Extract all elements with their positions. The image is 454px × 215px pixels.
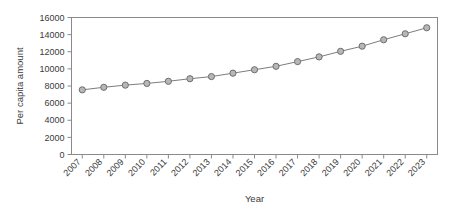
x-tick-label: 2013 (191, 157, 212, 178)
y-tick-label: 6000 (44, 98, 64, 108)
x-tick-label: 2011 (148, 157, 169, 178)
data-point[interactable]: 2015: 9900 (251, 67, 257, 73)
data-point[interactable]: 2009: 8100 (122, 82, 128, 88)
series-line (82, 28, 426, 90)
x-tick-label: 2017 (277, 157, 298, 178)
y-axis: 0200040006000800010000120001400016000 (39, 13, 71, 160)
x-tick-label: 2021 (363, 157, 384, 178)
x-tick-label: 2014 (212, 157, 233, 178)
y-tick-label: 0 (59, 150, 64, 160)
series-markers: 2007: 75502008: 78502009: 81002010: 8300… (79, 25, 430, 93)
data-point[interactable]: 2014: 9500 (230, 70, 236, 76)
x-tick-label: 2010 (126, 157, 147, 178)
x-tick-label: 2016 (255, 157, 276, 178)
y-axis-title-text: Per capita amount (14, 47, 25, 124)
x-tick-label: 2008 (83, 157, 104, 178)
line-chart: 0200040006000800010000120001400016000Per… (0, 0, 454, 215)
x-tick-label: 2018 (298, 157, 319, 178)
data-point[interactable]: 2020: 12650 (359, 43, 365, 49)
y-tick-label: 4000 (44, 115, 64, 125)
x-tick-label: 2019 (320, 157, 341, 178)
y-axis-title: Per capita amount (14, 47, 25, 124)
data-point[interactable]: 2019: 12050 (338, 48, 344, 54)
y-tick-label: 10000 (39, 64, 64, 74)
x-tick-label: 2020 (341, 157, 362, 178)
y-tick-label: 16000 (39, 13, 64, 23)
x-tick-label: 2012 (169, 157, 190, 178)
data-point[interactable]: 2018: 11400 (316, 54, 322, 60)
y-tick-label: 2000 (44, 133, 64, 143)
data-point[interactable]: 2017: 10850 (294, 59, 300, 65)
chart-container: 0200040006000800010000120001400016000Per… (0, 0, 454, 215)
x-tick-label: 2007 (61, 157, 82, 178)
data-point[interactable]: 2012: 8850 (187, 76, 193, 82)
x-tick-label: 2009 (105, 157, 126, 178)
y-tick-label: 14000 (39, 30, 64, 40)
data-point[interactable]: 2021: 13400 (381, 37, 387, 43)
x-axis-title-text: Year (245, 193, 264, 204)
y-tick-label: 12000 (39, 47, 64, 57)
data-point[interactable]: 2011: 8550 (165, 78, 171, 84)
data-point[interactable]: 2023: 14800 (424, 25, 430, 31)
x-tick-label: 2023 (406, 157, 427, 178)
x-axis: 2007200820092010201120122013201420152016… (61, 155, 427, 179)
data-point[interactable]: 2022: 14100 (402, 31, 408, 37)
data-point[interactable]: 2010: 8300 (144, 80, 150, 86)
data-point[interactable]: 2007: 7550 (79, 87, 85, 93)
x-tick-label: 2015 (234, 157, 255, 178)
data-point[interactable]: 2016: 10300 (273, 63, 279, 69)
data-point[interactable]: 2013: 9100 (208, 73, 214, 79)
data-point[interactable]: 2008: 7850 (101, 84, 107, 90)
x-tick-label: 2022 (384, 157, 405, 178)
y-tick-label: 8000 (44, 81, 64, 91)
